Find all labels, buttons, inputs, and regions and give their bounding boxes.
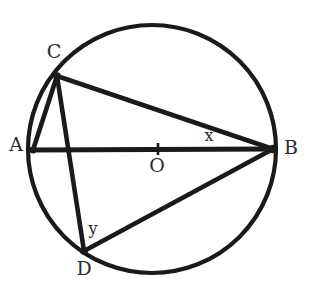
vertex-dot-a — [30, 147, 37, 154]
geometry-figure: A B C D O x y — [0, 0, 312, 290]
chord-cb — [57, 76, 273, 149]
chord-db — [84, 149, 273, 251]
vertex-dot-b — [269, 145, 277, 153]
point-label-d: D — [76, 257, 91, 279]
point-label-c: C — [47, 40, 62, 62]
angle-label-x: x — [204, 126, 213, 145]
diameter-ab — [33, 149, 273, 150]
circle-geometry-diagram: A B C D O x y — [0, 0, 312, 290]
point-label-a: A — [8, 133, 23, 155]
point-label-o: O — [149, 154, 165, 176]
point-label-b: B — [284, 136, 298, 158]
angle-label-y: y — [87, 219, 97, 238]
chord-cd — [57, 76, 84, 251]
vertex-dot-c — [53, 72, 61, 80]
vertex-dot-d — [80, 247, 88, 255]
